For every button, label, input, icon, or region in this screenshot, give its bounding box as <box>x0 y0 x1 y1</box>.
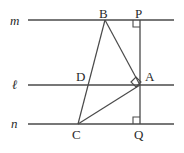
line-label-l: ℓ <box>12 78 17 91</box>
point-label-A: A <box>145 70 154 83</box>
geometry-diagram: m ℓ n B P D A C Q <box>0 0 184 153</box>
segment-CA <box>78 85 140 124</box>
point-label-C: C <box>72 128 81 141</box>
point-label-B: B <box>99 7 108 20</box>
line-label-m: m <box>10 14 19 27</box>
point-label-Q: Q <box>134 128 143 141</box>
point-label-D: D <box>76 70 85 83</box>
line-label-n: n <box>11 117 18 130</box>
right-angle-mark-Q <box>133 117 140 124</box>
diagram-canvas <box>0 0 184 153</box>
segment-BA <box>105 20 140 85</box>
right-angle-mark-P <box>133 20 140 27</box>
point-label-P: P <box>135 7 142 20</box>
